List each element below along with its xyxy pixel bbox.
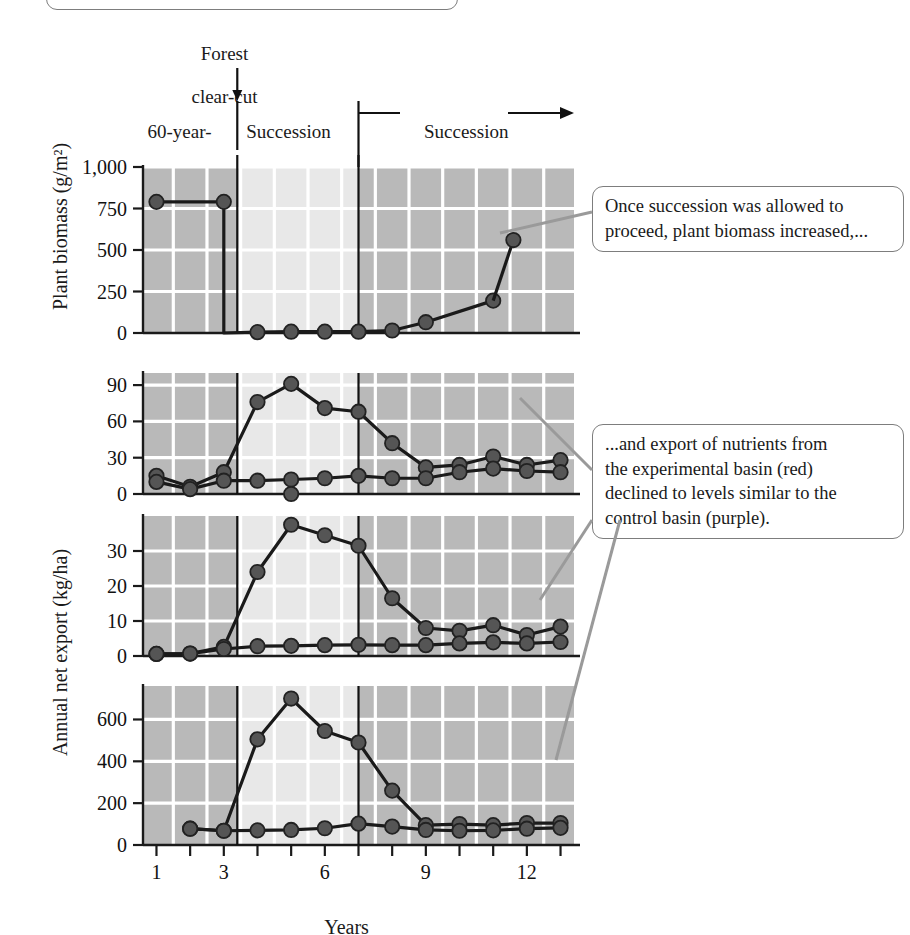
data-point (452, 465, 466, 479)
data-point (385, 591, 399, 605)
data-point (385, 323, 399, 337)
y-axis-tick-label: 10 (107, 610, 127, 632)
data-point (351, 539, 365, 553)
y-axis-tick-label: 200 (97, 792, 127, 814)
data-point (452, 636, 466, 650)
data-point (351, 638, 365, 652)
y-axis-tick-label: 0 (117, 483, 127, 505)
y-axis-tick-label: 60 (107, 410, 127, 432)
y-axis-tick-label: 500 (97, 239, 127, 261)
data-point (318, 724, 332, 738)
data-point (553, 635, 567, 649)
data-point (284, 518, 298, 532)
data-point (183, 482, 197, 496)
data-point (318, 471, 332, 485)
data-point (452, 824, 466, 838)
data-point (318, 324, 332, 338)
data-point (486, 461, 500, 475)
data-point (520, 636, 534, 650)
data-point (351, 324, 365, 338)
y-axis-tick-label: 0 (117, 645, 127, 667)
data-point (149, 195, 163, 209)
x-axis-tick-label: 9 (421, 861, 431, 883)
data-point (385, 783, 399, 797)
data-point (419, 621, 433, 635)
data-point-outlier (284, 487, 298, 501)
data-point (250, 639, 264, 653)
y-axis-tick-label: 400 (97, 750, 127, 772)
data-point (506, 233, 520, 247)
succession-arrow-head (560, 107, 574, 119)
data-point (385, 819, 399, 833)
data-point (351, 735, 365, 749)
data-point (419, 823, 433, 837)
data-point (486, 618, 500, 632)
data-point (351, 405, 365, 419)
data-point (351, 469, 365, 483)
y-axis-tick-label: 0 (117, 322, 127, 344)
data-point (250, 325, 264, 339)
data-point (385, 471, 399, 485)
y-axis-tick-label: 30 (107, 447, 127, 469)
data-point (217, 473, 231, 487)
y-axis-tick-label: 250 (97, 281, 127, 303)
data-point (486, 635, 500, 649)
data-point (318, 528, 332, 542)
y-axis-tick-label: 1,000 (82, 156, 127, 178)
x-axis-tick-label: 6 (320, 861, 330, 883)
data-point (385, 436, 399, 450)
data-point (284, 324, 298, 338)
data-point (149, 475, 163, 489)
data-point (419, 638, 433, 652)
data-point (250, 823, 264, 837)
y-axis-tick-label: 20 (107, 575, 127, 597)
data-point (419, 315, 433, 329)
data-point (284, 639, 298, 653)
data-point (553, 821, 567, 835)
chart-svg-layer: 02505007501,0000306090010203002004006001… (0, 0, 910, 935)
x-axis-tick-label: 12 (517, 861, 537, 883)
x-axis-tick-label: 3 (219, 861, 229, 883)
figure-root: Forest clear-cut 60-year- old forest Suc… (0, 0, 910, 935)
data-point (553, 465, 567, 479)
data-point (520, 821, 534, 835)
x-axis-tick-label: 1 (151, 861, 161, 883)
data-point (183, 646, 197, 660)
y-axis-tick-label: 0 (117, 834, 127, 856)
data-point (486, 823, 500, 837)
data-point (318, 638, 332, 652)
data-point (284, 472, 298, 486)
clear-cut-arrow-head (232, 90, 242, 101)
data-point (217, 642, 231, 656)
y-axis-tick-label: 30 (107, 540, 127, 562)
y-axis-tick-label: 90 (107, 374, 127, 396)
data-point (419, 471, 433, 485)
data-point (250, 732, 264, 746)
data-point (284, 377, 298, 391)
data-point (250, 395, 264, 409)
data-point (385, 638, 399, 652)
y-axis-tick-label: 750 (97, 198, 127, 220)
data-point (520, 464, 534, 478)
data-point (250, 473, 264, 487)
data-point (284, 691, 298, 705)
data-point (250, 565, 264, 579)
data-point (318, 401, 332, 415)
data-point (553, 619, 567, 633)
data-point (284, 823, 298, 837)
data-point (351, 816, 365, 830)
data-point (183, 821, 197, 835)
data-point (149, 647, 163, 661)
data-point (217, 824, 231, 838)
data-point (318, 821, 332, 835)
data-point (217, 195, 231, 209)
y-axis-tick-label: 600 (97, 708, 127, 730)
